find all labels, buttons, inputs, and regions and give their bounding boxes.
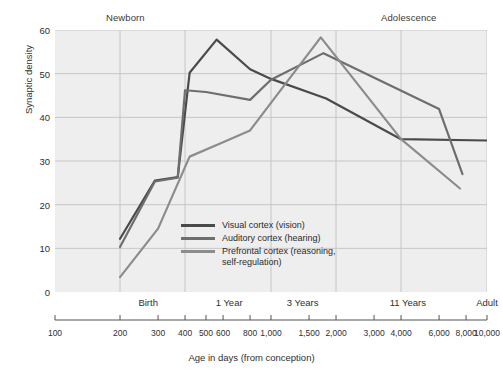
scale-tick-label: 100 (48, 328, 62, 338)
y-tick-label: 20 (0, 199, 50, 210)
annotation-newborn: Newborn (106, 12, 145, 23)
era-tick-label: 11 Years (390, 297, 426, 308)
series-line-1 (120, 53, 462, 247)
scale-tick-label: 2,000 (325, 328, 346, 338)
legend-swatch-prefrontal-cortex (181, 250, 215, 253)
scale-tick-label: 6,000 (428, 328, 449, 338)
legend-label-visual-cortex: Visual cortex (vision) (222, 220, 305, 231)
legend-swatch-visual-cortex (181, 224, 215, 227)
legend-label-prefrontal-cortex: Prefrontal cortex (reasoning, self-regul… (222, 246, 336, 268)
y-tick-label: 40 (0, 112, 50, 123)
series-line-0 (120, 40, 487, 239)
scale-tick-label: 1,000 (260, 328, 281, 338)
y-tick-label: 0 (0, 287, 50, 298)
legend-label-auditory-cortex: Auditory cortex (hearing) (222, 233, 321, 244)
y-tick-label: 60 (0, 25, 50, 36)
legend-label-prefrontal-cortex-line2: self-regulation) (222, 257, 282, 267)
legend-item-prefrontal-cortex[interactable]: Prefrontal cortex (reasoning, self-regul… (181, 246, 381, 268)
scale-tick-label: 600 (216, 328, 230, 338)
legend-item-visual-cortex[interactable]: Visual cortex (vision) (181, 220, 381, 231)
scale-tick-label: 800 (243, 328, 257, 338)
scale-tick-label: 4,000 (390, 328, 411, 338)
era-tick-label: 1 Year (216, 297, 243, 308)
era-tick-label: 3 Years (287, 297, 319, 308)
scale-tick-label: 3,000 (363, 328, 384, 338)
scale-tick-label: 300 (151, 328, 165, 338)
era-tick-label: Birth (138, 297, 158, 308)
y-tick-label: 10 (0, 243, 50, 254)
y-tick-label: 30 (0, 156, 50, 167)
synaptic-density-chart: Newborn Adolescence Synaptic density 010… (0, 0, 503, 370)
legend-swatch-auditory-cortex (181, 237, 215, 240)
chart-legend: Visual cortex (vision) Auditory cortex (… (181, 220, 381, 270)
annotation-adolescence: Adolescence (381, 12, 437, 23)
legend-item-auditory-cortex[interactable]: Auditory cortex (hearing) (181, 233, 381, 244)
legend-label-prefrontal-cortex-line1: Prefrontal cortex (reasoning, (222, 246, 336, 256)
y-tick-label: 50 (0, 68, 50, 79)
x-axis-title: Age in days (from conception) (0, 352, 503, 363)
scale-tick-label: 500 (199, 328, 213, 338)
scale-tick-label: 200 (113, 328, 127, 338)
scale-tick-label: 400 (178, 328, 192, 338)
scale-tick-label: 1,500 (298, 328, 319, 338)
era-tick-label: Adult (476, 297, 498, 308)
scale-tick-label: 10,000 (474, 328, 500, 338)
